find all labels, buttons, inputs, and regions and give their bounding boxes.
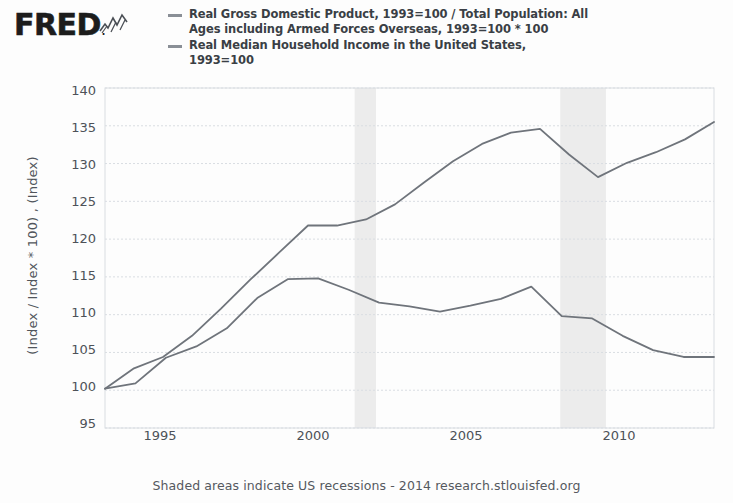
data-series-line — [105, 278, 714, 388]
y-tick-label: 110 — [52, 305, 96, 320]
line-chart-squiggle-icon — [99, 13, 129, 35]
plot-frame — [105, 88, 714, 428]
y-tick-label: 120 — [52, 231, 96, 246]
y-tick-label: 140 — [52, 83, 96, 98]
legend-color-swatch — [168, 14, 182, 17]
recession-bands — [355, 88, 606, 428]
fred-chart-figure: FRED. Real Gross Domestic Product, 1993=… — [0, 0, 733, 503]
chart-header: FRED. Real Gross Domestic Product, 1993=… — [0, 0, 733, 72]
y-axis-title: (Index / Index * 100) , (Index) — [25, 126, 40, 386]
y-tick-label: 115 — [52, 268, 96, 283]
chart-legend: Real Gross Domestic Product, 1993=100 / … — [168, 7, 713, 69]
y-tick-label: 130 — [52, 157, 96, 172]
legend-item-label: Real Median Household Income in the Unit… — [189, 38, 589, 68]
gridlines — [105, 88, 714, 428]
chart-footer-note: Shaded areas indicate US recessions - 20… — [0, 478, 733, 493]
data-series-line — [105, 122, 714, 389]
fred-logo-text: FRED — [14, 7, 101, 42]
plot-area: (Index / Index * 100) , (Index) 140 135 … — [0, 72, 733, 472]
y-tick-label: 125 — [52, 194, 96, 209]
y-tick-label: 100 — [52, 379, 96, 394]
data-series-group — [105, 122, 714, 389]
y-tick-label: 105 — [52, 342, 96, 357]
legend-item-label: Real Gross Domestic Product, 1993=100 / … — [189, 7, 589, 37]
x-tick-label: 2000 — [283, 428, 343, 443]
legend-item-median-income: Real Median Household Income in the Unit… — [168, 38, 713, 68]
x-axis-tick-labels: 1995 2000 2005 2010 — [0, 428, 733, 454]
y-axis-tick-labels: 140 135 130 125 120 115 110 105 100 95 — [48, 72, 96, 432]
x-tick-label: 2005 — [436, 428, 496, 443]
legend-color-swatch — [168, 45, 182, 48]
y-tick-label: 135 — [52, 120, 96, 135]
x-tick-label: 2010 — [589, 428, 649, 443]
recession-band — [560, 88, 606, 428]
x-tick-label: 1995 — [130, 428, 190, 443]
legend-item-gdp-per-capita: Real Gross Domestic Product, 1993=100 / … — [168, 7, 713, 37]
recession-band — [355, 88, 376, 428]
chart-canvas — [0, 72, 733, 472]
